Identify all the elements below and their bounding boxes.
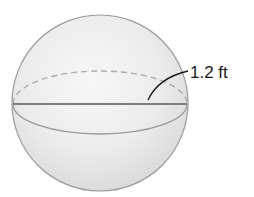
sphere-diagram: 1.2 ft: [0, 0, 254, 197]
radius-label: 1.2 ft: [190, 63, 228, 82]
